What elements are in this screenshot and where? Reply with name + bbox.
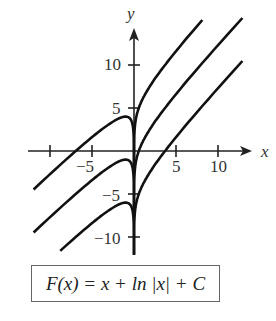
y-tick-label-5: 5 <box>112 100 121 117</box>
x-axis-label: x <box>261 143 269 160</box>
x-tick-label-neg5: −5 <box>76 158 94 175</box>
x-tick-label-10: 10 <box>210 158 227 175</box>
formula-text: F(x) = x + ln |x| + C <box>46 273 205 295</box>
formula-box: F(x) = x + ln |x| + C <box>31 265 220 302</box>
curve-left-branch <box>34 117 134 190</box>
axes <box>28 34 245 255</box>
y-tick-label-10: 10 <box>104 56 121 73</box>
curves <box>34 18 243 255</box>
y-tick-label-neg5: −5 <box>102 187 120 204</box>
y-tick-label-neg10: −10 <box>94 230 121 247</box>
x-tick-label-5: 5 <box>172 158 181 175</box>
y-axis-label: y <box>127 5 135 22</box>
curve-right-branch <box>134 18 242 216</box>
